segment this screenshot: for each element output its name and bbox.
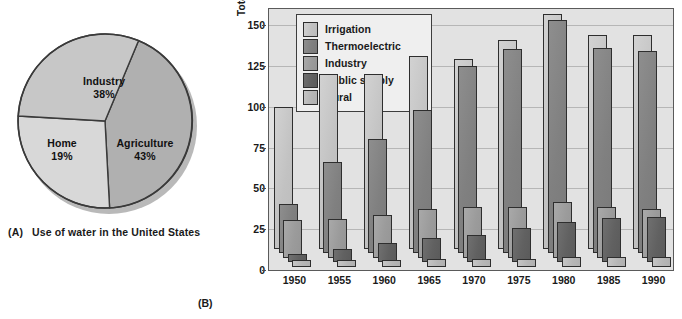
x-tick-1980: 1980 — [552, 274, 575, 286]
panel-b-bar-chart: Total withdrawals, in thousands of milli… — [228, 0, 682, 319]
pie-label-agriculture: Agriculture 43% — [103, 137, 187, 163]
y-tick-mark — [262, 66, 266, 67]
pie-label-home-pct: 19% — [51, 150, 72, 162]
x-tick-1970: 1970 — [462, 274, 485, 286]
x-tick-1965: 1965 — [417, 274, 440, 286]
bar-1955-rural — [337, 260, 356, 267]
x-tick-1955: 1955 — [328, 274, 351, 286]
legend-label: Irrigation — [325, 24, 371, 35]
x-tick-1990: 1990 — [642, 274, 665, 286]
legend-label: Industry — [325, 58, 367, 69]
pie-label-agriculture-name: Agriculture — [116, 137, 173, 149]
x-tick-1960: 1960 — [373, 274, 396, 286]
pie-label-industry-pct: 38% — [93, 88, 114, 100]
bar-1990-public-supply — [647, 217, 666, 263]
pie-label-agriculture-pct: 43% — [134, 150, 155, 162]
bar-group-1990 — [628, 0, 673, 270]
pie-chart: Industry 38% Home 19% Agriculture 43% — [17, 33, 199, 215]
bar-group-1970 — [449, 0, 494, 270]
y-tick-mark — [262, 188, 266, 189]
y-axis-tick-labels: 0255075100125150 — [228, 8, 266, 271]
y-tick-mark — [262, 25, 266, 26]
panel-a-caption: (A)Use of water in the United States — [8, 226, 200, 238]
legend-swatch-icon — [303, 73, 318, 88]
y-tick-mark — [262, 270, 266, 271]
panel-b-tag: (B) — [198, 297, 213, 309]
legend-item-irrigation: Irrigation — [303, 21, 425, 37]
legend-swatch-icon — [303, 39, 318, 54]
y-tick-mark — [262, 229, 266, 230]
legend-swatch-icon — [303, 22, 318, 37]
pie-label-home-name: Home — [47, 137, 77, 149]
pie-slices — [17, 33, 195, 211]
legend-label: Thermoelectric — [325, 41, 401, 52]
bar-1960-rural — [382, 260, 401, 267]
y-tick-mark — [262, 107, 266, 108]
panel-a-caption-text: Use of water in the United States — [32, 226, 200, 238]
bar-group-1980 — [538, 0, 583, 270]
bar-1970-rural — [472, 259, 491, 267]
bar-1975-public-supply — [512, 228, 531, 262]
legend-swatch-icon — [303, 90, 318, 105]
legend-item-industry: Industry — [303, 55, 425, 71]
bar-group-1985 — [583, 0, 628, 270]
legend-swatch-icon — [303, 56, 318, 71]
pie-label-industry-name: Industry — [83, 75, 125, 87]
panel-a-pie-chart: Industry 38% Home 19% Agriculture 43% (A… — [0, 0, 228, 319]
x-tick-1950: 1950 — [283, 274, 306, 286]
bar-group-1975 — [493, 0, 538, 270]
bar-1960-public-supply — [378, 243, 397, 263]
legend-item-thermoelectric: Thermoelectric — [303, 38, 425, 54]
bar-1985-rural — [607, 257, 626, 267]
x-tick-1975: 1975 — [507, 274, 530, 286]
bar-1985-public-supply — [602, 218, 621, 262]
panel-a-tag: (A) — [8, 226, 32, 238]
bar-1980-rural — [562, 257, 581, 267]
pie-label-industry: Industry 38% — [61, 75, 147, 101]
bar-1975-rural — [517, 259, 536, 267]
x-tick-1985: 1985 — [597, 274, 620, 286]
bar-1950-industry — [283, 220, 302, 258]
x-axis-tick-labels: 195019551960196519701975198019851990 — [268, 274, 674, 292]
y-tick-mark — [262, 148, 266, 149]
bar-1950-rural — [292, 260, 311, 267]
pie-label-home: Home 19% — [31, 137, 93, 163]
bar-1990-rural — [652, 257, 671, 267]
bar-1965-rural — [427, 259, 446, 267]
